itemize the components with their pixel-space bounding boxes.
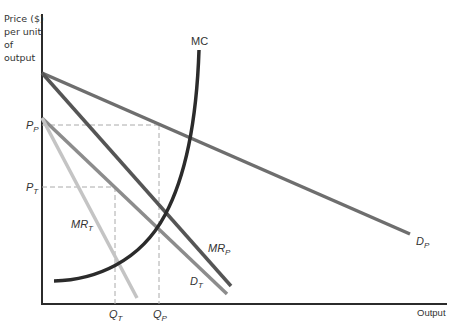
mr-p-curve bbox=[42, 73, 231, 286]
x-axis-title: Output bbox=[417, 307, 446, 318]
quantity-label-qt: QT bbox=[109, 308, 124, 323]
quantity-label-qp: QP bbox=[153, 308, 168, 323]
demand-p-label: DP bbox=[416, 235, 430, 250]
mr-t-curve bbox=[42, 118, 137, 298]
mr-t-label: MRT bbox=[71, 218, 94, 233]
mr-p-label: MRP bbox=[208, 242, 231, 257]
mc-label: MC bbox=[191, 35, 208, 47]
price-label-pp: PP bbox=[26, 119, 39, 134]
demand-p-curve bbox=[42, 73, 410, 234]
demand-t-label: DT bbox=[190, 275, 204, 290]
demand-t-curve bbox=[42, 118, 227, 294]
price-label-pt: PT bbox=[26, 181, 39, 196]
price-discrimination-diagram: MC DP MRP DT MRT PP PT QT QP Output bbox=[0, 0, 457, 327]
